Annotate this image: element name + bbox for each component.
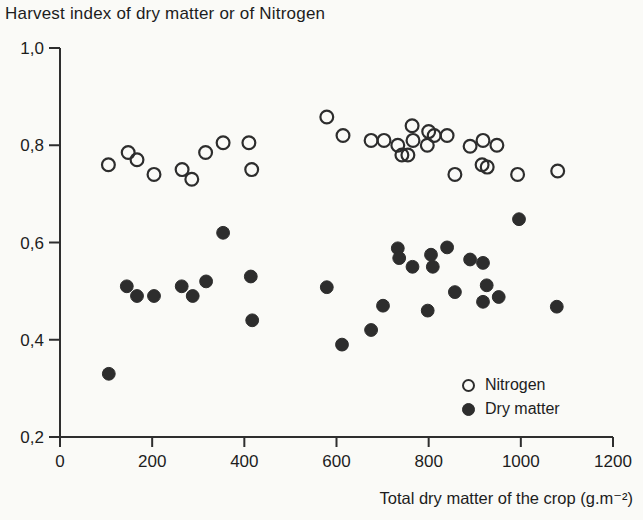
open-circle-marker-icon bbox=[462, 379, 475, 392]
data-point-dry-matter bbox=[550, 300, 563, 313]
data-point-nitrogen bbox=[243, 136, 256, 149]
x-tick-label: 200 bbox=[138, 452, 166, 471]
data-point-dry-matter bbox=[120, 280, 133, 293]
x-tick-label: 800 bbox=[414, 452, 442, 471]
data-point-dry-matter bbox=[148, 290, 161, 303]
data-point-nitrogen bbox=[102, 158, 115, 171]
y-tick-label: 0,8 bbox=[20, 136, 44, 155]
filled-circle-marker-icon bbox=[462, 403, 475, 416]
data-point-nitrogen bbox=[511, 168, 524, 181]
data-point-dry-matter bbox=[477, 257, 490, 270]
data-point-dry-matter bbox=[175, 280, 188, 293]
data-point-dry-matter bbox=[421, 304, 434, 317]
data-point-dry-matter bbox=[102, 367, 115, 380]
data-point-nitrogen bbox=[365, 134, 378, 147]
data-point-dry-matter bbox=[425, 248, 438, 261]
data-point-nitrogen bbox=[407, 134, 420, 147]
data-point-nitrogen bbox=[199, 146, 212, 159]
data-point-dry-matter bbox=[449, 286, 462, 299]
data-point-dry-matter bbox=[393, 252, 406, 265]
data-point-dry-matter bbox=[477, 295, 490, 308]
data-point-dry-matter bbox=[480, 279, 493, 292]
data-point-dry-matter bbox=[426, 260, 439, 273]
y-tick-label: 0,2 bbox=[20, 428, 44, 447]
legend: Nitrogen Dry matter bbox=[462, 375, 560, 419]
x-tick-label: 400 bbox=[230, 452, 258, 471]
data-point-dry-matter bbox=[464, 253, 477, 266]
x-tick-label: 1000 bbox=[502, 452, 540, 471]
data-point-dry-matter bbox=[246, 314, 259, 327]
chart-figure: Harvest index of dry matter or of Nitrog… bbox=[0, 0, 643, 520]
legend-item-dry-matter: Dry matter bbox=[462, 399, 560, 419]
data-point-nitrogen bbox=[148, 168, 161, 181]
data-point-nitrogen bbox=[406, 119, 419, 132]
data-point-dry-matter bbox=[365, 324, 378, 337]
x-axis-label: Total dry matter of the crop (g.m⁻²) bbox=[379, 489, 633, 508]
data-point-dry-matter bbox=[377, 299, 390, 312]
x-tick-label: 0 bbox=[55, 452, 64, 471]
data-point-dry-matter bbox=[186, 290, 199, 303]
data-point-dry-matter bbox=[513, 213, 526, 226]
data-point-dry-matter bbox=[492, 291, 505, 304]
legend-item-nitrogen: Nitrogen bbox=[462, 375, 560, 395]
legend-label-dry-matter: Dry matter bbox=[485, 400, 560, 418]
data-point-nitrogen bbox=[491, 139, 504, 152]
data-point-nitrogen bbox=[185, 173, 198, 186]
data-point-nitrogen bbox=[337, 129, 350, 142]
data-point-nitrogen bbox=[551, 165, 564, 178]
data-point-nitrogen bbox=[131, 153, 144, 166]
data-point-nitrogen bbox=[464, 140, 477, 153]
data-point-dry-matter bbox=[244, 270, 257, 283]
data-point-dry-matter bbox=[320, 281, 333, 294]
data-point-nitrogen bbox=[441, 129, 454, 142]
y-tick-label: 0,6 bbox=[20, 234, 44, 253]
data-point-nitrogen bbox=[449, 168, 462, 181]
data-point-dry-matter bbox=[406, 260, 419, 273]
scatter-plot-canvas: 0,20,40,60,81,0020040060080010001200 bbox=[0, 0, 643, 520]
y-tick-label: 0,4 bbox=[20, 331, 44, 350]
legend-label-nitrogen: Nitrogen bbox=[485, 376, 545, 394]
data-point-nitrogen bbox=[477, 134, 490, 147]
y-tick-label: 1,0 bbox=[20, 39, 44, 58]
data-point-dry-matter bbox=[131, 290, 144, 303]
data-point-dry-matter bbox=[441, 241, 454, 254]
x-tick-label: 1200 bbox=[594, 452, 632, 471]
x-tick-label: 600 bbox=[322, 452, 350, 471]
data-point-nitrogen bbox=[320, 111, 333, 124]
data-point-dry-matter bbox=[217, 226, 230, 239]
data-point-nitrogen bbox=[378, 134, 391, 147]
data-point-nitrogen bbox=[217, 136, 230, 149]
data-point-dry-matter bbox=[336, 338, 349, 351]
data-point-dry-matter bbox=[200, 275, 213, 288]
data-point-nitrogen bbox=[122, 146, 135, 159]
data-point-nitrogen bbox=[245, 163, 258, 176]
